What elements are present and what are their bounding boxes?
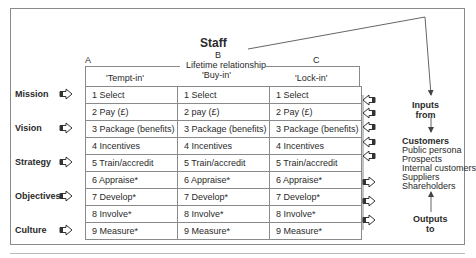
arrow-right-icon bbox=[363, 177, 375, 187]
arrow-right-icon bbox=[60, 123, 72, 133]
arrow-left-icon bbox=[363, 137, 375, 147]
arrow-right-icon bbox=[60, 191, 72, 201]
staff-to-inputs-line bbox=[248, 17, 431, 95]
arrow-right-icon bbox=[60, 225, 72, 235]
arrow-right-icon bbox=[60, 89, 72, 99]
arrow-left-icon bbox=[363, 122, 375, 132]
arrow-right-icon bbox=[60, 157, 72, 167]
arrow-right-icon bbox=[363, 215, 375, 225]
arrow-right-icon bbox=[363, 196, 375, 206]
bottom-rule bbox=[10, 253, 465, 254]
arrow-left-icon bbox=[363, 108, 375, 118]
arrow-left-icon bbox=[363, 151, 375, 161]
arrow-left-icon bbox=[363, 95, 375, 105]
